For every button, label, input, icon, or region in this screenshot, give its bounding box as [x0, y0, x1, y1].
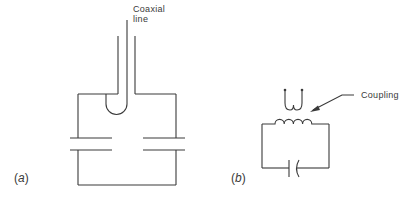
panel-a-label: (a) — [14, 172, 29, 184]
panel-b-label-letter: b — [235, 171, 242, 185]
coupling-arrowhead-icon — [310, 106, 320, 113]
coupling-annotation: Coupling — [361, 91, 399, 100]
coaxial-line-annotation-line2: line — [133, 15, 165, 24]
coupling-loop — [285, 90, 302, 110]
coaxial-line-annotation-line1: Coaxial — [133, 5, 165, 14]
coupling-loop — [106, 20, 127, 115]
coupling-leader-line — [313, 95, 354, 110]
coaxial-line-annotation: Coaxial line — [133, 5, 165, 24]
panel-b-drawing — [262, 89, 354, 177]
panel-b-label: (b) — [231, 172, 246, 184]
resonant-circuit-figure: Coaxial line Coupling (a) (b) — [0, 0, 415, 197]
circuit-drawings — [0, 0, 415, 197]
panel-b-label-close: ) — [242, 171, 246, 185]
panel-a-drawing — [70, 20, 185, 185]
inductor — [262, 119, 329, 124]
panel-a-label-close: ) — [25, 171, 29, 185]
panel-a-label-letter: a — [18, 171, 25, 185]
